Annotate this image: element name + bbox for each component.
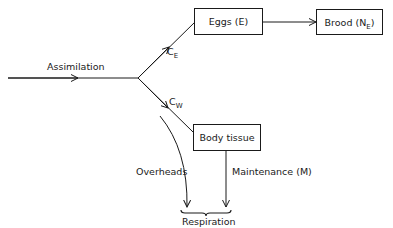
node-body-tissue: Body tissue [193, 124, 261, 151]
assimilation-label: Assimilation [47, 61, 105, 72]
overheads-label: Overheads [136, 166, 187, 177]
ce-label: CE [167, 46, 178, 57]
maintenance-label: Maintenance (M) [232, 166, 312, 177]
cw-label: CW [169, 96, 183, 107]
respiration-label: Respiration [182, 216, 236, 227]
node-eggs: Eggs (E) [194, 8, 263, 35]
brood-label: Brood (NE) [325, 17, 375, 28]
overheads-curve [160, 116, 187, 207]
node-brood: Brood (NE) [316, 9, 383, 35]
body-tissue-label: Body tissue [199, 132, 254, 143]
eggs-label: Eggs (E) [209, 16, 248, 27]
